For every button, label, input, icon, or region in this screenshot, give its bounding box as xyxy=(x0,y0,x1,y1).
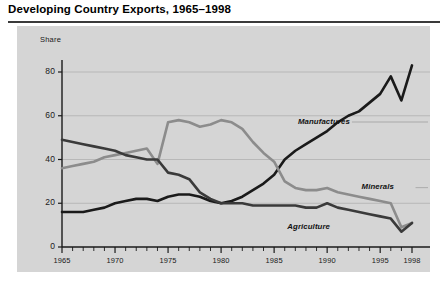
y-axis-title: Share xyxy=(40,35,61,44)
x-tick-label: 1990 xyxy=(312,256,342,265)
series-label-agriculture: Agriculture xyxy=(287,222,330,231)
chart-figure: Developing Country Exports, 1965–1998 Sh… xyxy=(0,0,447,287)
x-tick-label: 1970 xyxy=(100,256,130,265)
series-label-manufactures: Manufactures xyxy=(298,117,350,126)
x-tick-label: 1998 xyxy=(397,256,427,265)
x-tick-label: 1995 xyxy=(365,256,395,265)
y-tick-label: 0 xyxy=(33,241,55,251)
series-label-minerals: Minerals xyxy=(362,182,394,191)
y-tick-label: 40 xyxy=(33,154,55,164)
y-tick-label: 80 xyxy=(33,66,55,76)
chart-panel xyxy=(17,26,430,272)
y-tick-label: 20 xyxy=(33,197,55,207)
title-divider xyxy=(8,21,440,23)
x-tick-label: 1980 xyxy=(206,256,236,265)
page-title: Developing Country Exports, 1965–1998 xyxy=(8,3,231,15)
x-tick-label: 1975 xyxy=(153,256,183,265)
series-line-agriculture xyxy=(62,140,412,232)
series-line-manufactures xyxy=(62,65,412,212)
x-tick-label: 1985 xyxy=(259,256,289,265)
y-tick-label: 60 xyxy=(33,110,55,120)
x-tick-label: 1965 xyxy=(47,256,77,265)
line-plot xyxy=(17,26,430,272)
